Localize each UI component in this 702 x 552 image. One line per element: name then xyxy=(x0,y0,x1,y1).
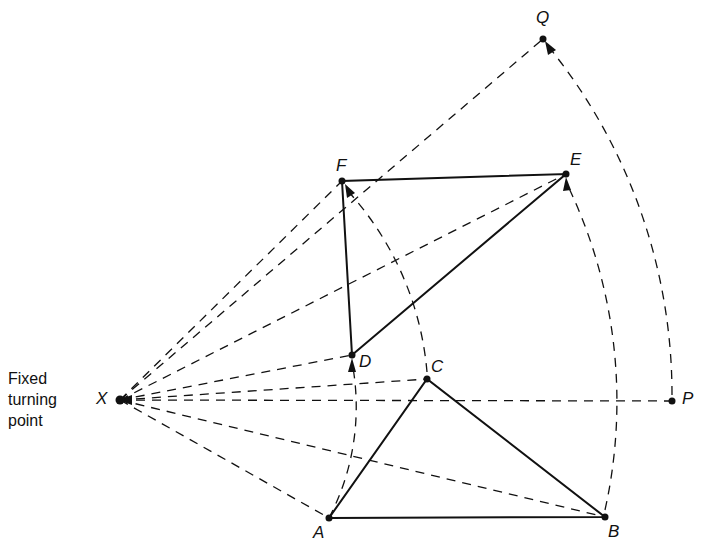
triangle-def xyxy=(342,174,566,355)
point-f xyxy=(339,178,346,185)
caption-line-2: turning xyxy=(8,389,57,410)
rotation-diagram: Fixed turning point X A B C D E F P Q xyxy=(0,0,702,552)
arc-p-to-q xyxy=(548,46,672,395)
label-b: B xyxy=(608,522,619,542)
label-d: D xyxy=(359,352,371,372)
point-d xyxy=(349,352,356,359)
ray-x-b xyxy=(120,400,605,517)
arc-c-to-f xyxy=(347,190,427,372)
arrowhead-e xyxy=(563,177,571,191)
label-p: P xyxy=(682,389,693,409)
caption-line-3: point xyxy=(8,410,57,431)
label-x: X xyxy=(96,389,107,409)
point-x xyxy=(116,396,125,405)
point-e xyxy=(563,171,570,178)
ray-x-p xyxy=(120,400,672,401)
arc-b-to-e xyxy=(566,182,617,510)
label-e: E xyxy=(570,150,581,170)
point-b xyxy=(602,514,609,521)
ray-x-q xyxy=(120,39,543,400)
ray-x-c xyxy=(120,379,427,400)
ray-x-a xyxy=(120,400,329,518)
point-c xyxy=(424,376,431,383)
label-q: Q xyxy=(536,8,549,28)
caption-line-1: Fixed xyxy=(8,368,57,389)
fixed-turning-point-caption: Fixed turning point xyxy=(8,368,57,431)
label-c: C xyxy=(431,357,443,377)
label-f: F xyxy=(336,156,346,176)
diagram-canvas xyxy=(0,0,702,552)
point-q xyxy=(540,36,547,43)
point-p xyxy=(669,398,676,405)
ray-x-f xyxy=(120,181,342,400)
ray-x-d xyxy=(120,355,352,400)
triangle-abc xyxy=(329,379,605,518)
arrowhead-d xyxy=(348,358,356,372)
label-a: A xyxy=(313,523,324,543)
point-a xyxy=(326,515,333,522)
arrowhead-f xyxy=(345,184,355,198)
